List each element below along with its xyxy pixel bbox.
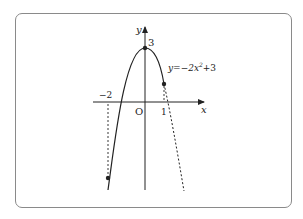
parabola-graph: y x O 3 −2 1 y=−2x2+3	[0, 0, 303, 219]
right-endpoint	[162, 82, 166, 86]
parabola-solid	[108, 48, 164, 190]
origin-label: O	[135, 106, 143, 117]
x-axis-label: x	[201, 104, 207, 115]
x-neg2-label: −2	[99, 90, 112, 100]
vertex-y-label: 3	[148, 37, 154, 48]
vertex-point	[143, 46, 147, 50]
x-1-label: 1	[161, 107, 167, 117]
y-axis-label: y	[135, 24, 142, 35]
parabola-dashed	[164, 84, 184, 191]
left-endpoint	[106, 176, 110, 180]
equation-label: y=−2x2+3	[167, 61, 216, 73]
